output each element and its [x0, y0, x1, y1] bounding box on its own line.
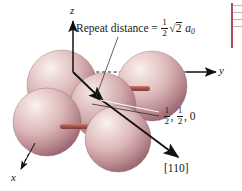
crystal-structure-figure: z y x Repeat distance = 12√2 a0 12, 12, … [0, 0, 242, 191]
page-margin-text-lines [233, 5, 242, 47]
coordinate-first-fraction: 12 [164, 106, 171, 126]
coordinate-separator-1: , [171, 110, 177, 122]
repeat-distance-label: Repeat distance = 12√2 a0 [76, 18, 195, 38]
square-root-symbol: √2 [168, 22, 182, 35]
repeat-distance-fraction: 12 [161, 18, 168, 38]
direction-index-label: [110] [164, 163, 188, 175]
axis-label-y: y [219, 65, 224, 76]
coordinate-second-fraction: 12 [177, 106, 184, 126]
lattice-parameter-subscript: 0 [191, 27, 195, 36]
axis-label-x: x [11, 172, 16, 183]
radicand: 2 [176, 22, 183, 35]
atom-corner-front [85, 106, 151, 172]
coordinate-third-value: 0 [190, 110, 196, 122]
repeat-distance-prefix: Repeat distance = [76, 22, 161, 34]
axis-label-z: z [70, 5, 74, 16]
coordinate-label: 12, 12, 0 [163, 106, 195, 126]
atom-face-front-left [13, 88, 81, 156]
